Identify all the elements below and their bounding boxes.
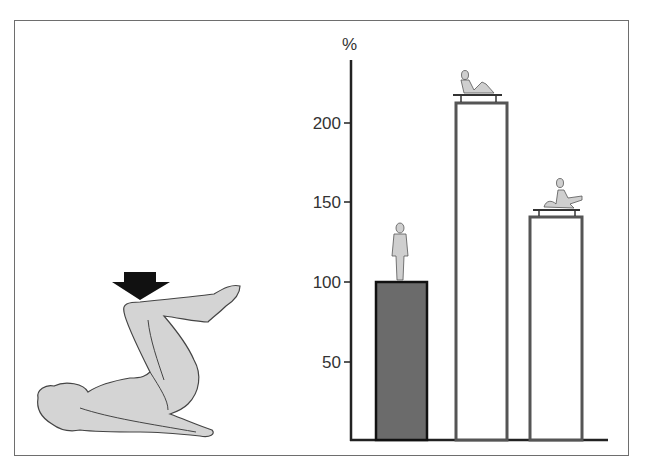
down-arrow-icon [112,272,170,300]
y-tick-200: 200 [313,114,341,133]
crunch-figure-icon [544,179,582,209]
bar-standing [376,282,427,440]
y-tick-150: 150 [313,193,341,212]
bars [376,103,582,440]
y-tick-50: 50 [322,353,341,372]
exercise-illustration [38,272,240,437]
crunch-platform [533,210,580,216]
bar-situp [456,103,507,440]
body-figure [38,285,240,436]
standing-figure-icon [392,223,408,280]
bar-leg-raise-crunch [530,217,582,440]
situp-figure-icon [461,71,494,94]
y-tick-100: 100 [313,273,341,292]
chart: % 200 150 100 50 [0,0,647,462]
situp-platform [453,95,502,102]
y-unit-label: % [342,35,357,54]
